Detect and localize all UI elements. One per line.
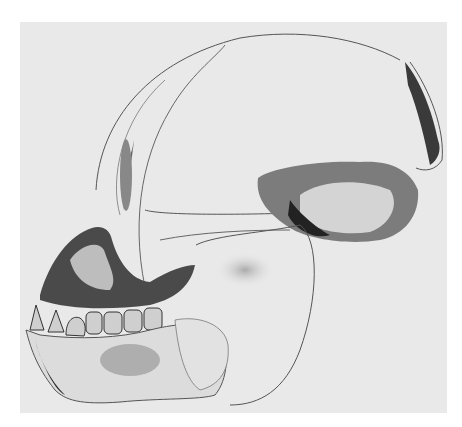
maxilla — [40, 227, 195, 308]
teeth-row — [30, 305, 162, 336]
inner-vault-outline — [139, 45, 225, 300]
orbit-shadow — [120, 139, 132, 211]
skull-illustration — [0, 0, 462, 427]
occipital-crest — [405, 62, 440, 165]
